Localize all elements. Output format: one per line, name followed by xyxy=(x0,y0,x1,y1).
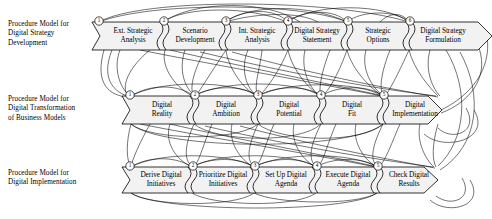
stage-number-s4: 4 xyxy=(284,18,292,23)
stage-label-t1[interactable]: Digital Reality xyxy=(134,100,190,118)
stage-number-i4: 4 xyxy=(313,163,321,168)
row-label-implementation: Procedure Model for Digital Implementati… xyxy=(8,169,96,188)
stage-label-i1[interactable]: Derive Digital Initiatives xyxy=(132,170,190,188)
stage-number-s5: 5 xyxy=(344,18,352,23)
stage-number-t5: 5 xyxy=(380,92,388,97)
stage-number-s3: 3 xyxy=(222,18,230,23)
stage-number-t3: 3 xyxy=(254,92,262,97)
stage-number-i1: 1 xyxy=(126,163,134,168)
stage-label-s3[interactable]: Int. Strategic Analysis xyxy=(228,26,286,44)
stage-number-s2: 2 xyxy=(160,18,168,23)
stage-number-i2: 2 xyxy=(189,163,197,168)
stage-label-t2[interactable]: Digital Ambition xyxy=(198,100,254,118)
stage-label-s5[interactable]: Strategic Options xyxy=(350,26,406,44)
procedure-model-diagram: .bandshape { fill:#f2f2f2; stroke:#000; … xyxy=(0,0,492,219)
stage-number-i3: 3 xyxy=(251,163,259,168)
stage-label-i5[interactable]: Check Digital Results xyxy=(381,170,437,188)
stage-label-s2[interactable]: Scenario Development xyxy=(166,26,224,44)
stage-number-t4: 4 xyxy=(317,92,325,97)
stage-label-i2[interactable]: Prioritize Digital Initiatives xyxy=(194,170,252,188)
stage-number-i5: 5 xyxy=(374,163,382,168)
row-label-strategy: Procedure Model for Digital Strategy Dev… xyxy=(8,20,90,48)
stage-label-s4[interactable]: Digital Strategy Statement xyxy=(288,26,346,44)
stage-label-t5[interactable]: Digital Implementation xyxy=(387,100,443,118)
stage-label-i3[interactable]: Set Up Digital Agenda xyxy=(257,170,315,188)
stage-number-t2: 2 xyxy=(191,92,199,97)
stage-label-s1[interactable]: Ext. Strategic Analysis xyxy=(103,26,163,44)
stage-label-t3[interactable]: Digital Potential xyxy=(261,100,317,118)
stage-label-i4[interactable]: Execute Digital Agenda xyxy=(319,170,377,188)
row-label-transformation: Procedure Model for Digital Transformati… xyxy=(8,95,94,123)
stage-label-s6[interactable]: Digital Strategy Formulation xyxy=(412,26,474,44)
stage-number-t1: 1 xyxy=(126,92,134,97)
stage-number-s1: 1 xyxy=(95,18,103,23)
stage-label-t4[interactable]: Digital Fit xyxy=(324,100,380,118)
stage-number-s6: 6 xyxy=(406,18,414,23)
